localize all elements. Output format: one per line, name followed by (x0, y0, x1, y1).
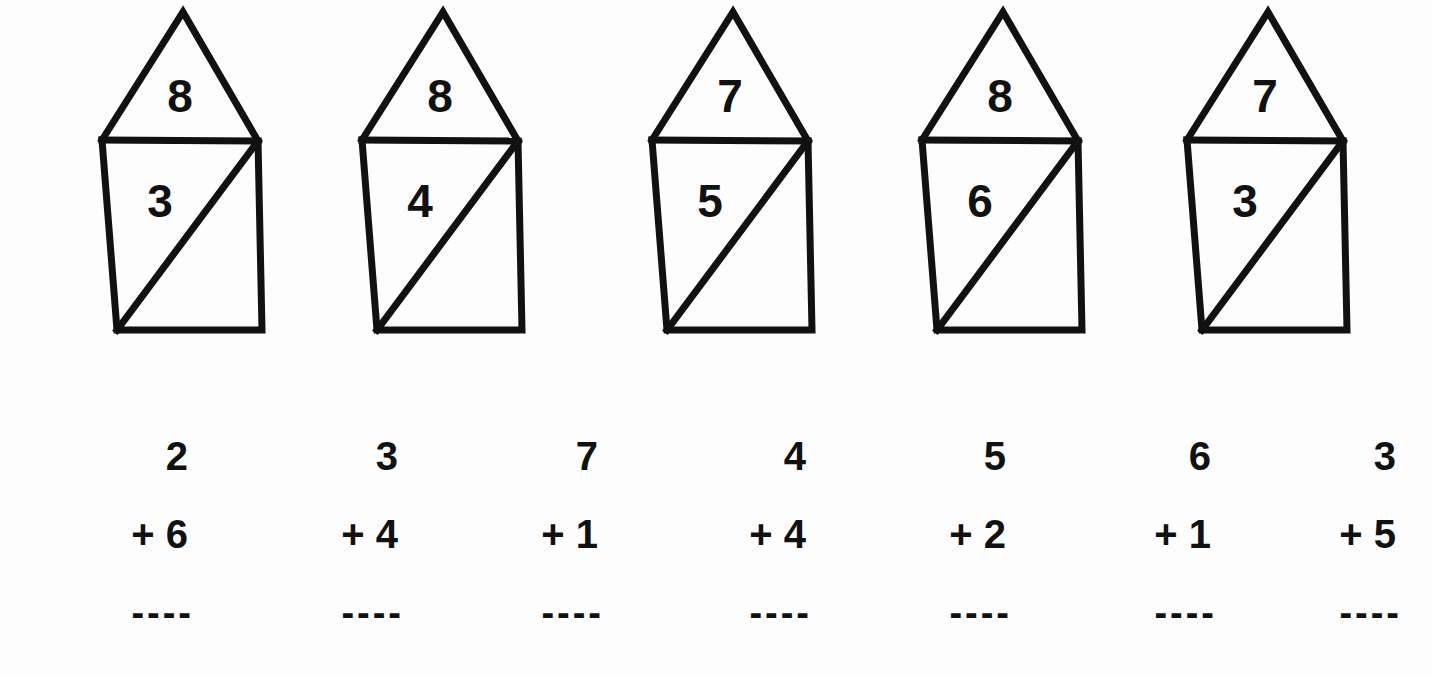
answer-rule-dashes[interactable]: ---- (1250, 594, 1430, 632)
addition-problem: 7+ 1---- (452, 436, 632, 636)
horizontal-divider-line (1187, 140, 1343, 141)
worksheet-page: 8384758673 2+ 6----3+ 4----7+ 1----4+ 4-… (0, 0, 1432, 677)
addend-top: 6 (1065, 436, 1245, 486)
diagonal-line (377, 141, 518, 330)
addend-bottom-with-operator: + 2 (860, 514, 1040, 564)
diagonal-line (667, 141, 808, 330)
shape-bottom-number: 3 (1232, 175, 1258, 227)
shape-top-number: 8 (167, 70, 193, 122)
horizontal-divider-line (362, 140, 518, 141)
answer-rule-dashes[interactable]: ---- (252, 594, 432, 632)
addend-bottom-with-operator: + 5 (1250, 514, 1430, 564)
addend-top: 5 (860, 436, 1040, 486)
shape-top-number: 8 (987, 70, 1013, 122)
addend-bottom-with-operator: + 4 (252, 514, 432, 564)
addend-top: 2 (42, 436, 222, 486)
pentagon-figure: 83 (40, 0, 340, 420)
addend-bottom-with-operator: + 1 (1065, 514, 1245, 564)
horizontal-divider-line (102, 140, 258, 141)
answer-rule-dashes[interactable]: ---- (660, 594, 840, 632)
horizontal-divider-line (922, 140, 1078, 141)
pentagon-figure: 84 (300, 0, 600, 420)
addend-bottom-with-operator: + 6 (42, 514, 222, 564)
answer-rule-dashes[interactable]: ---- (1065, 594, 1245, 632)
addition-problem: 2+ 6---- (42, 436, 222, 636)
problems-row: 2+ 6----3+ 4----7+ 1----4+ 4----5+ 2----… (0, 436, 1432, 646)
shapes-row: 8384758673 (0, 0, 1432, 420)
addend-top: 7 (452, 436, 632, 486)
addition-problem: 5+ 2---- (860, 436, 1040, 636)
diagonal-line (937, 141, 1078, 330)
addend-bottom-with-operator: + 4 (660, 514, 840, 564)
pentagon-figure: 75 (590, 0, 890, 420)
diagonal-line (117, 141, 258, 330)
diagonal-line (1202, 141, 1343, 330)
addend-bottom-with-operator: + 1 (452, 514, 632, 564)
answer-rule-dashes[interactable]: ---- (452, 594, 632, 632)
shape-top-number: 7 (1252, 70, 1278, 122)
addition-problem: 3+ 4---- (252, 436, 432, 636)
answer-rule-dashes[interactable]: ---- (860, 594, 1040, 632)
shape-bottom-number: 3 (147, 175, 173, 227)
addition-problem: 6+ 1---- (1065, 436, 1245, 636)
addition-problem: 3+ 5---- (1250, 436, 1430, 636)
shape-top-number: 7 (717, 70, 743, 122)
answer-rule-dashes[interactable]: ---- (42, 594, 222, 632)
shape-top-number: 8 (427, 70, 453, 122)
pentagon-figure: 73 (1125, 0, 1425, 420)
pentagon-figure: 86 (860, 0, 1160, 420)
addend-top: 3 (252, 436, 432, 486)
horizontal-divider-line (652, 140, 808, 141)
addend-top: 3 (1250, 436, 1430, 486)
shape-bottom-number: 4 (407, 175, 433, 227)
shape-bottom-number: 6 (967, 175, 993, 227)
addend-top: 4 (660, 436, 840, 486)
addition-problem: 4+ 4---- (660, 436, 840, 636)
shape-bottom-number: 5 (697, 175, 723, 227)
